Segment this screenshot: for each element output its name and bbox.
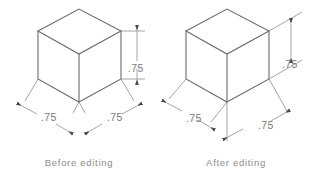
extension-line-outer (121, 79, 134, 101)
extension-line-top (269, 12, 302, 31)
dimension-line-right (122, 106, 137, 114)
dimension-line-left (22, 106, 37, 114)
extension-line-inner (211, 102, 227, 122)
dimension-text-left-width: .75 (41, 111, 57, 123)
dimension-line-right (56, 124, 68, 131)
dimension-text-height: .75 (128, 62, 144, 74)
extension-line-outer (269, 79, 287, 111)
cube-after (186, 9, 269, 102)
dimension-text-right-width: .75 (107, 111, 123, 123)
technical-drawing: .75 .75 .75 Before editing (0, 0, 314, 183)
dimension-line-left (167, 103, 182, 111)
dimension-text-left-width: .75 (186, 112, 202, 124)
caption-before: Before editing (45, 157, 113, 168)
panel-before: .75 .75 .75 Before editing (22, 9, 145, 168)
dimension-text-height: .75 (282, 58, 298, 70)
drawing-canvas: .75 .75 .75 Before editing (0, 0, 314, 183)
panel-after: .75 .75 .75 After editing (167, 9, 302, 168)
caption-after: After editing (206, 157, 266, 168)
extension-line-outer (25, 79, 38, 101)
extension-line-inner (73, 102, 79, 113)
dimension-line-left (90, 124, 102, 131)
dimension-line-left (228, 129, 243, 137)
extension-line-inner (79, 102, 85, 113)
dimension-height-before[interactable]: .75 (121, 31, 145, 79)
extension-line-outer (169, 79, 186, 99)
cube-before (38, 9, 121, 102)
dimension-height-after[interactable]: .75 (269, 12, 302, 79)
dimension-text-right-width: .75 (258, 119, 274, 131)
